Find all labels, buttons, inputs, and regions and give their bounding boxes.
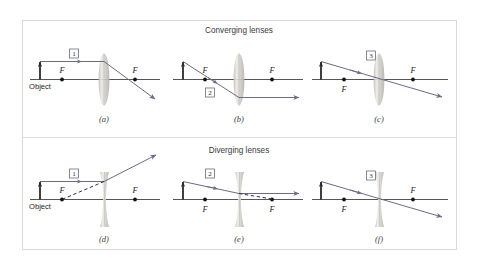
page-background — [0, 0, 479, 269]
ray-number-label: 1 — [72, 50, 76, 58]
focal-point-near — [342, 78, 346, 82]
focal-label-near: F — [58, 66, 65, 75]
section-title-diverging: Diverging lenses — [209, 146, 270, 155]
focal-point-near — [203, 198, 207, 202]
focal-label-near: F — [340, 85, 347, 94]
section-title-converging: Converging lenses — [205, 26, 273, 35]
lens-ray-diagram-figure: Converging lenses F F Object 1 (a) — [0, 0, 479, 269]
focal-point-near — [60, 198, 64, 202]
focal-point-far — [133, 198, 137, 202]
ray-number-label: 2 — [208, 170, 212, 178]
ray-number-label: 3 — [369, 172, 373, 180]
focal-label-near: F — [340, 205, 347, 214]
focal-label-far: F — [268, 205, 275, 214]
focal-point-far — [411, 198, 415, 202]
focal-label-near: F — [201, 205, 208, 214]
panel-caption: (b) — [234, 114, 244, 124]
object-label: Object — [29, 82, 52, 91]
ray-number-label: 2 — [208, 89, 212, 97]
panel-caption: (e) — [234, 234, 244, 244]
focal-label-far: F — [268, 66, 275, 75]
panel-caption: (c) — [374, 114, 384, 124]
panel-caption: (f) — [375, 234, 383, 244]
focal-point-near — [342, 198, 346, 202]
focal-point-far — [133, 78, 137, 82]
focal-label-far: F — [409, 186, 416, 195]
focal-point-near — [60, 78, 64, 82]
focal-point-near — [203, 78, 207, 82]
focal-point-far — [411, 78, 415, 82]
ray-number-label: 3 — [369, 52, 373, 60]
focal-label-near: F — [58, 186, 65, 195]
object-label: Object — [29, 202, 52, 211]
focal-label-far: F — [131, 66, 138, 75]
focal-label-far: F — [409, 66, 416, 75]
panel-caption: (d) — [99, 234, 109, 244]
ray-number-label: 1 — [72, 170, 76, 178]
focal-point-far — [270, 78, 274, 82]
focal-label-far: F — [131, 186, 138, 195]
panel-caption: (a) — [99, 114, 109, 124]
focal-point-far — [270, 198, 274, 202]
